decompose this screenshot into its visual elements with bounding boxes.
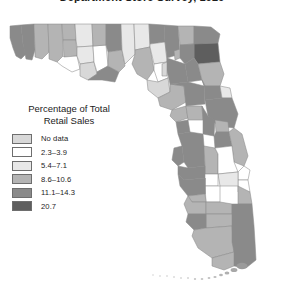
county-washington[interactable]	[63, 40, 77, 57]
county-hernando[interactable]	[176, 120, 190, 134]
legend-item-class-4[interactable]: 11.1–14.3	[12, 186, 132, 200]
choropleth-figure: Department Store Survey, 1929	[0, 0, 284, 294]
county-leon[interactable]	[106, 24, 122, 52]
county-duval[interactable]	[194, 43, 220, 64]
legend-label-class-3: 8.6–10.6	[41, 175, 71, 184]
county-okaloosa[interactable]	[34, 24, 49, 59]
legend-swatch-class-1	[12, 147, 32, 157]
map-legend: Percentage of Total Retail Sales No data…	[12, 103, 132, 213]
county-st-johns[interactable]	[198, 62, 224, 86]
legend-item-no-data[interactable]: No data	[12, 132, 132, 146]
county-bay[interactable]	[57, 56, 80, 72]
county-sumter[interactable]	[186, 106, 203, 120]
county-hamilton[interactable]	[149, 24, 165, 44]
county-pasco[interactable]	[178, 132, 204, 146]
county-hendry[interactable]	[206, 214, 232, 228]
legend-item-class-1[interactable]: 2.3–3.9	[12, 146, 132, 160]
county-hardee[interactable]	[205, 174, 218, 186]
county-indian-river[interactable]	[238, 166, 250, 180]
legend-item-class-3[interactable]: 8.6–10.6	[12, 173, 132, 187]
legend-label-class-4: 11.1–14.3	[41, 188, 75, 197]
legend-label-class-1: 2.3–3.9	[41, 148, 67, 157]
county-baker[interactable]	[178, 26, 194, 45]
county-taylor[interactable]	[132, 47, 154, 80]
county-okeechobee[interactable]	[218, 172, 238, 186]
county-lee[interactable]	[186, 214, 206, 230]
county-nassau[interactable]	[194, 26, 220, 44]
legend-item-class-2[interactable]: 5.4–7.1	[12, 159, 132, 173]
county-broward[interactable]	[232, 226, 255, 242]
county-highlands[interactable]	[205, 186, 220, 202]
county-walton[interactable]	[48, 24, 63, 62]
figure-title: Department Store Survey, 1929	[0, 0, 284, 3]
legend-item-class-5[interactable]: 20.7	[12, 200, 132, 214]
county-seminole[interactable]	[215, 120, 229, 132]
county-gilchrist[interactable]	[162, 62, 167, 76]
legend-swatch-class-3	[12, 174, 32, 184]
county-glades[interactable]	[206, 202, 232, 214]
county-flagler[interactable]	[220, 86, 232, 98]
legend-swatch-class-2	[12, 161, 32, 171]
legend-label-class-5: 20.7	[41, 202, 56, 211]
county-collier[interactable]	[192, 226, 234, 258]
county-gadsden[interactable]	[92, 24, 106, 46]
legend-label-class-2: 5.4–7.1	[41, 161, 67, 170]
county-calhoun[interactable]	[77, 46, 94, 64]
legend-label-no-data: No data	[41, 134, 68, 143]
legend-swatch-no-data	[12, 134, 32, 144]
legend-title: Percentage of Total Retail Sales	[12, 103, 132, 126]
legend-swatch-class-4	[12, 188, 32, 198]
county-union[interactable]	[174, 49, 180, 60]
county-hillsborough[interactable]	[182, 146, 205, 168]
county-madison[interactable]	[134, 24, 150, 50]
county-jackson[interactable]	[75, 24, 93, 47]
county-holmes[interactable]	[62, 24, 76, 40]
legend-swatch-class-5	[12, 201, 32, 211]
county-palm-beach[interactable]	[232, 204, 254, 226]
